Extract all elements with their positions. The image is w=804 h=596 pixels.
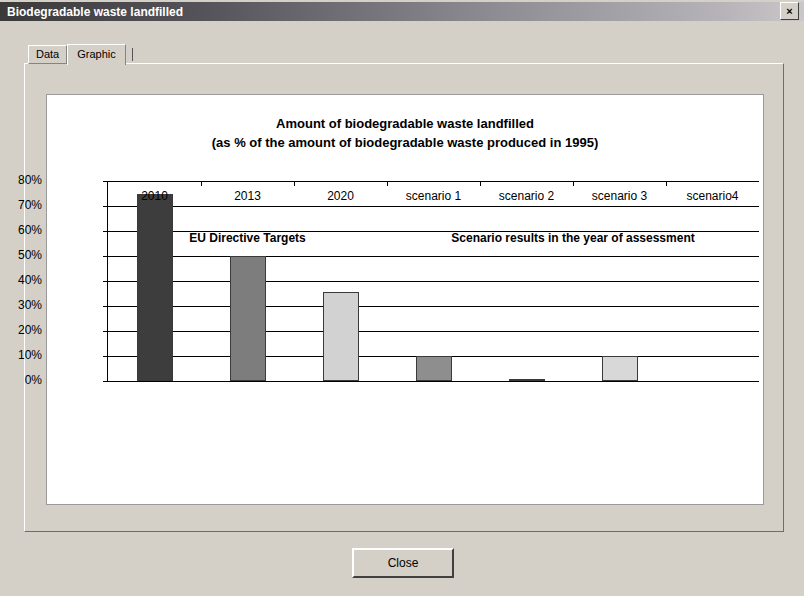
plot-wrapper: 0%10%20%30%40%50%60%70%80%201020132020sc… — [47, 95, 763, 504]
y-axis-tick — [103, 206, 108, 207]
y-axis-label: 20% — [18, 323, 42, 337]
x-axis-label: scenario 1 — [406, 189, 461, 203]
chart-panel: Amount of biodegradable waste landfilled… — [46, 94, 764, 505]
gridline — [108, 331, 759, 332]
x-axis-label: scenario4 — [686, 189, 738, 203]
y-axis-label: 0% — [25, 373, 42, 387]
x-axis-tick — [201, 181, 202, 186]
bar — [137, 194, 173, 382]
bar — [230, 256, 266, 381]
bar — [416, 356, 452, 381]
bar — [509, 379, 545, 382]
x-axis-label: 2020 — [327, 189, 354, 203]
close-x-icon[interactable]: × — [780, 2, 799, 20]
y-axis-label: 60% — [18, 223, 42, 237]
y-axis-label: 50% — [18, 248, 42, 262]
x-axis-tick — [387, 181, 388, 186]
y-axis-tick — [103, 306, 108, 307]
x-axis-tick — [294, 181, 295, 186]
gridline — [108, 281, 759, 282]
y-axis-label: 80% — [18, 173, 42, 187]
tab-graphic[interactable]: Graphic — [67, 44, 126, 65]
gridline — [108, 306, 759, 307]
gridline — [108, 181, 759, 182]
tab-data[interactable]: Data — [28, 45, 67, 64]
tab-caret — [132, 48, 133, 61]
tab-strip: Data Graphic — [28, 46, 133, 64]
plot-area: 0%10%20%30%40%50%60%70%80%201020132020sc… — [107, 181, 759, 382]
x-axis-label: 2010 — [141, 189, 168, 203]
y-axis-label: 30% — [18, 298, 42, 312]
window-title: Biodegradable waste landfilled — [0, 5, 183, 19]
y-axis-tick — [103, 356, 108, 357]
axis-group-label: EU Directive Targets — [189, 231, 306, 245]
y-axis-tick — [103, 256, 108, 257]
y-axis-tick — [103, 231, 108, 232]
close-button[interactable]: Close — [352, 548, 454, 578]
dialog-window: Biodegradable waste landfilled × Data Gr… — [0, 0, 804, 596]
y-axis-tick — [103, 331, 108, 332]
x-axis-tick — [573, 181, 574, 186]
x-axis-label: scenario 3 — [592, 189, 647, 203]
gridline — [108, 206, 759, 207]
gridline — [108, 256, 759, 257]
x-axis-label: 2013 — [234, 189, 261, 203]
x-axis-tick — [666, 181, 667, 186]
bar — [602, 356, 638, 381]
y-axis-tick — [103, 181, 108, 182]
y-axis-label: 40% — [18, 273, 42, 287]
y-axis-tick — [103, 281, 108, 282]
bar — [323, 292, 359, 381]
y-axis-label: 70% — [18, 198, 42, 212]
x-axis-label: scenario 2 — [499, 189, 554, 203]
y-axis-label: 10% — [18, 348, 42, 362]
title-bar: Biodegradable waste landfilled — [0, 2, 804, 21]
axis-group-label: Scenario results in the year of assessme… — [451, 231, 694, 245]
x-axis-tick — [480, 181, 481, 186]
y-axis-tick — [103, 381, 108, 382]
